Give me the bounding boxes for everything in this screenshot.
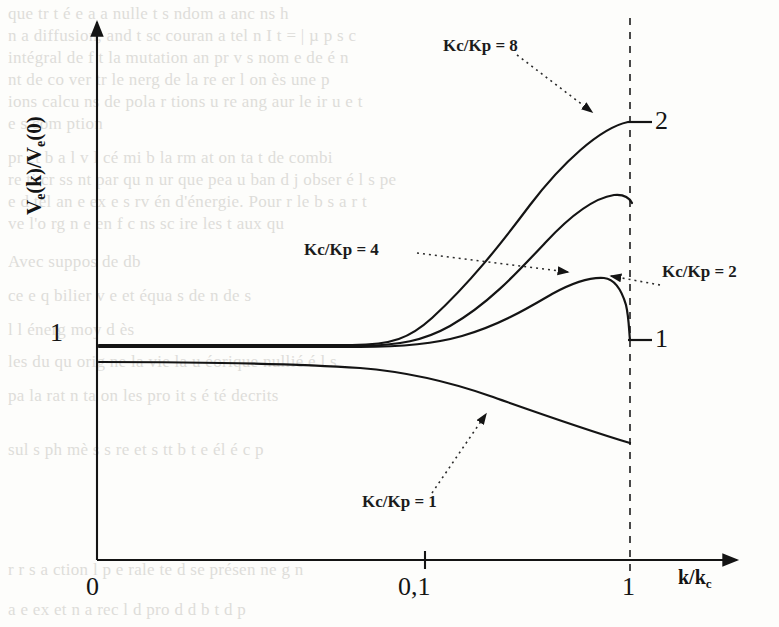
y-axis-label-rest: (k)/V — [22, 147, 46, 194]
annotation-kc-kp-1: Kc/Kp = 1 — [362, 492, 437, 512]
curve-end-value-2: 2 — [655, 106, 668, 136]
y-axis-label-sub2: e — [33, 141, 48, 147]
x-tick-label-0-1: 0,1 — [398, 572, 431, 602]
y-axis-label-sub: e — [33, 194, 48, 200]
x-axis-label-text: k/k — [678, 566, 706, 588]
y-axis-label-text: V — [22, 200, 46, 215]
annotation-kc-kp-8: Kc/Kp = 8 — [443, 36, 518, 56]
curve-kc-kp-4 — [99, 195, 632, 346]
leader-kc-kp-8 — [517, 55, 592, 112]
curve-kc-kp-8 — [99, 122, 628, 345]
x-axis-label: k/kc — [678, 566, 712, 592]
annotation-kc-kp-4: Kc/Kp = 4 — [304, 240, 379, 260]
x-tick-label-1: 1 — [622, 572, 635, 602]
leader-kc-kp-2 — [611, 276, 660, 285]
y-axis-label-rest2: (0) — [22, 116, 46, 141]
leader-kc-kp-1 — [432, 414, 486, 493]
annotation-kc-kp-2: Kc/Kp = 2 — [662, 262, 737, 282]
curve-kc-kp-2 — [99, 278, 630, 347]
curve-end-value-1: 1 — [655, 324, 668, 354]
y-axis-label: Ve(k)/Ve(0) — [22, 116, 49, 215]
figure-canvas: que tr t é e a a nulle t s ndom a anc ns… — [0, 0, 779, 627]
plot-svg — [0, 0, 779, 627]
curve-kc-kp-1 — [99, 362, 630, 443]
leader-kc-kp-4 — [417, 253, 568, 272]
x-tick-label-0: 0 — [86, 572, 99, 602]
x-axis-label-sub: c — [706, 576, 712, 591]
y-tick-label-1: 1 — [50, 318, 63, 348]
